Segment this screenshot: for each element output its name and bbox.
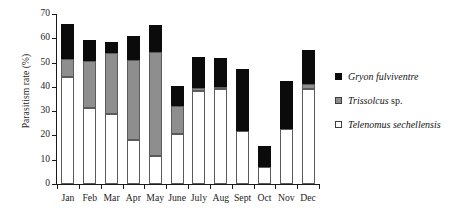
stacked-bar-sept [236, 69, 249, 184]
y-axis-tick-mark [52, 63, 56, 64]
x-axis-tick-label-sept: Sept [234, 193, 251, 203]
bar-segment-sept-gryon-fulviventre [236, 69, 249, 131]
x-axis-tick-mark [79, 185, 80, 189]
x-axis-tick-mark [101, 185, 102, 189]
bar-segment-dec-telenomus-sechellensis [302, 89, 315, 184]
stacked-bar-mar [105, 42, 118, 184]
y-axis-tick-label: 30 [41, 106, 51, 116]
y-axis-tick-mark [52, 14, 56, 15]
y-axis-tick-mark [52, 111, 56, 112]
y-axis-tick-label: 40 [41, 82, 51, 92]
x-axis-tick-mark [123, 185, 124, 189]
stacked-bar-nov [280, 81, 293, 184]
bar-segment-may-gryon-fulviventre [149, 25, 162, 52]
bar-segment-aug-telenomus-sechellensis [214, 89, 227, 184]
x-axis-tick-mark [319, 185, 320, 189]
bar-segment-may-telenomus-sechellensis [149, 156, 162, 184]
x-axis-tick-label-apr: Apr [126, 193, 141, 203]
y-axis-tick-label: 10 [41, 155, 51, 165]
bar-segment-apr-gryon-fulviventre [127, 36, 140, 60]
y-axis-tick-mark [52, 135, 56, 136]
x-axis-tick-mark [144, 185, 145, 189]
legend-swatch-icon [335, 97, 342, 104]
plot-area: 010203040506070 JanFebMarAprMayJuneJulyA… [57, 14, 319, 184]
x-axis-tick-mark [232, 185, 233, 189]
x-axis-tick-mark [210, 185, 211, 189]
bar-segment-apr-telenomus-sechellensis [127, 140, 140, 184]
bar-segment-dec-gryon-fulviventre [302, 50, 315, 84]
bar-segment-may-trissolcus-sp [149, 52, 162, 156]
y-axis-tick-mark [52, 38, 56, 39]
x-axis-tick-label-dec: Dec [300, 193, 316, 203]
legend-label: Gryon fulviventre [348, 71, 418, 82]
bar-segment-jan-trissolcus-sp [61, 59, 74, 77]
bar-segment-mar-telenomus-sechellensis [105, 114, 118, 184]
legend-swatch-icon [335, 121, 342, 128]
bar-segment-jan-gryon-fulviventre [61, 24, 74, 59]
bar-segment-june-gryon-fulviventre [171, 86, 184, 107]
x-axis-tick-mark [57, 185, 58, 189]
stacked-bar-jan [61, 24, 74, 184]
x-axis-tick-mark [166, 185, 167, 189]
bar-segment-oct-telenomus-sechellensis [258, 167, 271, 184]
x-axis-tick-mark [188, 185, 189, 189]
y-axis-tick-label: 60 [41, 34, 51, 44]
bar-segment-aug-trissolcus-sp [214, 87, 227, 89]
y-axis-tick-label: 70 [41, 9, 51, 19]
y-axis-tick-label: 20 [41, 131, 51, 141]
stacked-bar-june [171, 86, 184, 184]
x-axis-tick-mark [254, 185, 255, 189]
bar-segment-mar-gryon-fulviventre [105, 42, 118, 53]
bar-segment-july-telenomus-sechellensis [192, 91, 205, 185]
x-axis-tick-label-aug: Aug [212, 193, 229, 203]
y-axis-tick-mark [52, 87, 56, 88]
stacked-bar-aug [214, 58, 227, 184]
x-axis-tick-label-nov: Nov [278, 193, 295, 203]
y-axis-tick-label: 50 [41, 58, 51, 68]
x-axis-tick-label-oct: Oct [257, 193, 271, 203]
stacked-bar-oct [258, 146, 271, 184]
legend-label: Telenomus sechellensis [348, 119, 441, 130]
stacked-bar-apr [127, 36, 140, 184]
x-axis-tick-label-june: June [168, 193, 186, 203]
x-axis-tick-label-feb: Feb [82, 193, 97, 203]
bar-segment-jan-telenomus-sechellensis [61, 77, 74, 184]
bar-segment-nov-telenomus-sechellensis [280, 129, 293, 184]
y-axis-title: Parasitism rate (%) [21, 11, 31, 171]
bar-segment-june-telenomus-sechellensis [171, 134, 184, 184]
stacked-bar-feb [83, 40, 96, 185]
y-axis-tick-mark [52, 184, 56, 185]
bar-segment-feb-telenomus-sechellensis [83, 108, 96, 185]
bar-segment-july-trissolcus-sp [192, 88, 205, 90]
bar-segment-oct-gryon-fulviventre [258, 146, 271, 167]
bar-segment-sept-telenomus-sechellensis [236, 131, 249, 184]
bar-segment-nov-gryon-fulviventre [280, 81, 293, 130]
chart-legend: Gryon fulviventreTrissolcus sp.Telenomus… [335, 64, 461, 136]
legend-swatch-icon [335, 73, 342, 80]
stacked-bar-dec [302, 50, 315, 184]
x-axis-tick-label-jan: Jan [61, 193, 74, 203]
legend-label: Trissolcus sp. [348, 95, 402, 106]
x-axis-tick-mark [275, 185, 276, 189]
x-axis-tick-mark [297, 185, 298, 189]
bar-segment-july-gryon-fulviventre [192, 57, 205, 89]
stacked-bar-july [192, 57, 205, 185]
stacked-bar-may [149, 25, 162, 184]
x-axis-tick-label-mar: Mar [104, 193, 120, 203]
legend-item-telenomus-sechellensis: Telenomus sechellensis [335, 112, 461, 136]
y-axis-tick-label: 0 [45, 179, 50, 189]
bar-segment-aug-gryon-fulviventre [214, 58, 227, 87]
bar-segment-mar-trissolcus-sp [105, 53, 118, 114]
bar-segment-dec-trissolcus-sp [302, 84, 315, 89]
bar-segment-feb-gryon-fulviventre [83, 40, 96, 62]
legend-item-trissolcus: Trissolcus sp. [335, 88, 461, 112]
legend-item-gryon-fulviventre: Gryon fulviventre [335, 64, 461, 88]
bar-segment-june-trissolcus-sp [171, 106, 184, 134]
x-axis-tick-label-may: May [146, 193, 164, 203]
bar-segment-feb-trissolcus-sp [83, 61, 96, 107]
y-axis-tick-mark [52, 160, 56, 161]
y-axis-line [56, 14, 57, 185]
x-axis-tick-label-july: July [191, 193, 207, 203]
bar-segment-apr-trissolcus-sp [127, 60, 140, 140]
parasitism-rate-stacked-bar-chart: Parasitism rate (%) 010203040506070 JanF… [0, 0, 461, 219]
